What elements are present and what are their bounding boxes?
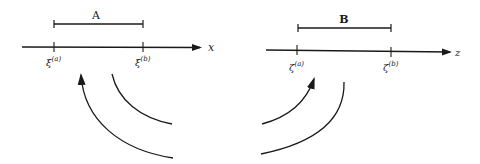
z-axis-line	[266, 50, 450, 52]
curve-right-outer	[261, 82, 344, 154]
diagram-svg: A x ξ(a) ξ(b) B z ζ(a)	[0, 0, 480, 164]
right-panel: B z ζ(a) ζ(b)	[261, 13, 461, 154]
z-axis-label: z	[454, 47, 461, 58]
interval-label-b: B	[339, 13, 348, 26]
xi-a-label: ξ(a)	[46, 55, 61, 68]
diagram-stage: A x ξ(a) ξ(b) B z ζ(a)	[0, 0, 480, 164]
zeta-a-label: ζ(a)	[289, 60, 304, 73]
x-axis-label: x	[208, 41, 215, 54]
curve-left-inner	[112, 74, 172, 124]
interval-label-a: A	[91, 9, 101, 22]
x-axis-line	[22, 47, 200, 48]
zeta-b-label: ζ(b)	[383, 60, 399, 73]
curve-arrow-right-inner	[262, 79, 314, 124]
xi-b-label: ξ(b)	[135, 55, 151, 68]
curve-arrow-left-outer	[81, 75, 173, 158]
left-panel: A x ξ(a) ξ(b)	[22, 9, 215, 158]
